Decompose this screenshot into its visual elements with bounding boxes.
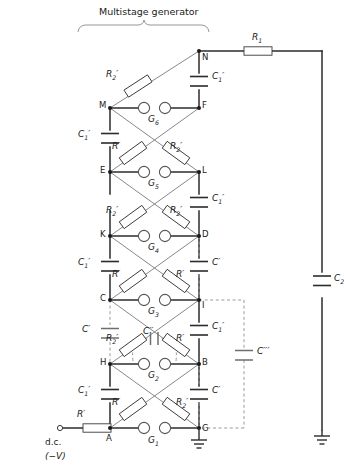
node-K: K xyxy=(100,230,106,239)
label-Cp-BG: C′ xyxy=(212,386,220,395)
label-G1: G1 xyxy=(148,436,159,447)
label-Rp-I: R′ xyxy=(176,270,184,279)
node-D: D xyxy=(202,230,209,239)
node-H: H xyxy=(100,358,106,367)
label-Rp-B: R′ xyxy=(176,334,184,343)
label-C1p-KC: C1′ xyxy=(78,258,90,269)
label-R2p-D: R2′ xyxy=(170,206,182,217)
label-Rp-E: R′ xyxy=(112,142,120,151)
bracket-multistage xyxy=(78,20,209,32)
label-Cp-DI: C′ xyxy=(212,258,220,267)
label-C2: C2 xyxy=(334,274,344,285)
label-R2p-L: R2′ xyxy=(170,142,182,153)
label-G6: G6 xyxy=(148,115,159,126)
label-G5: G5 xyxy=(148,179,159,190)
label-R2p-K: R2′ xyxy=(106,206,118,217)
node-M: M xyxy=(99,101,106,110)
label-C1p-HA: C1′ xyxy=(78,386,90,397)
node-L: L xyxy=(202,166,207,175)
label-R2p-H: R2′ xyxy=(106,334,118,345)
node-N: N xyxy=(202,53,208,62)
node-A: A xyxy=(106,434,112,443)
capacitors-solid xyxy=(101,77,331,400)
label-C1p-IB: C1′ xyxy=(212,322,224,333)
figure-title: Multistage generator xyxy=(99,7,199,17)
label-Cpp: C′′ xyxy=(143,327,153,336)
label-R2p-G: R2′ xyxy=(176,398,188,409)
label-C1p-ME: C1′ xyxy=(78,130,90,141)
node-G: G xyxy=(202,424,209,433)
resistor-input-Rp xyxy=(83,424,111,432)
node-C: C xyxy=(100,294,106,303)
label-Rp-A: R′ xyxy=(112,398,120,407)
label-R1: R1 xyxy=(252,33,262,44)
dc-polarity: (−V) xyxy=(45,452,66,461)
resistor-R1 xyxy=(244,47,272,55)
label-Cppp: C′′′ xyxy=(257,347,269,356)
label-G4: G4 xyxy=(148,243,159,254)
dc-label: d.c. xyxy=(45,438,61,447)
label-R2p-MN: R2′ xyxy=(106,70,118,81)
label-Rp-C: R′ xyxy=(112,270,120,279)
node-E: E xyxy=(100,166,105,175)
node-F: F xyxy=(202,101,207,110)
ground-right-rail xyxy=(314,430,330,444)
label-G2: G2 xyxy=(148,371,159,382)
label-G3: G3 xyxy=(148,307,159,318)
label-C1p-LD: C1′ xyxy=(212,194,224,205)
node-B: B xyxy=(202,358,208,367)
dc-terminal xyxy=(57,425,62,430)
node-I: I xyxy=(202,301,205,310)
label-Rp-input: R′ xyxy=(77,410,85,419)
label-C1p-NF: C1′ xyxy=(212,72,224,83)
label-Cp-CH: C′ xyxy=(82,325,90,334)
